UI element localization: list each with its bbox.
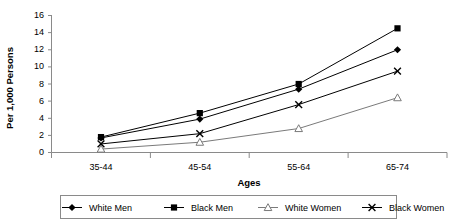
data-point xyxy=(394,46,401,53)
x-category-label: 55-64 xyxy=(287,162,310,172)
x-axis-ticks xyxy=(52,153,448,159)
data-point xyxy=(98,134,104,140)
series-line xyxy=(101,28,398,137)
y-tick-label: 2 xyxy=(39,130,44,140)
line-chart-figure: Per 1,000 Persons 16 14 12 10 8 6 4 2 0 xyxy=(0,0,456,224)
x-category-label: 45-54 xyxy=(188,162,211,172)
series-layer xyxy=(97,25,401,152)
chart-canvas: Per 1,000 Persons 16 14 12 10 8 6 4 2 0 xyxy=(0,0,456,224)
y-tick-label: 16 xyxy=(34,10,44,20)
legend-label: White Men xyxy=(89,203,132,213)
y-axis-title: Per 1,000 Persons xyxy=(4,47,15,129)
data-point xyxy=(394,25,400,31)
data-point xyxy=(394,68,401,75)
data-point xyxy=(296,81,302,87)
series-white-women xyxy=(97,94,401,152)
series-line xyxy=(101,50,398,138)
x-category-label: 35-44 xyxy=(89,162,112,172)
data-point xyxy=(394,94,402,101)
data-point xyxy=(295,101,302,108)
legend-label: White Women xyxy=(285,203,341,213)
series-line xyxy=(101,71,398,144)
y-tick-label: 4 xyxy=(39,113,44,123)
y-tick-label: 10 xyxy=(34,61,44,71)
y-tick-label: 14 xyxy=(34,27,44,37)
y-tick-label: 6 xyxy=(39,96,44,106)
x-axis-category-labels: 35-44 45-54 55-64 65-74 xyxy=(89,162,409,172)
data-point xyxy=(197,110,203,116)
legend-label: Black Men xyxy=(191,203,233,213)
x-category-label: 65-74 xyxy=(386,162,409,172)
legend-label: Black Women xyxy=(389,203,444,213)
filled-square-marker xyxy=(171,204,177,210)
y-axis-tick-labels: 16 14 12 10 8 6 4 2 0 xyxy=(34,10,44,157)
y-axis-ticks xyxy=(48,16,52,153)
y-tick-label: 0 xyxy=(39,147,44,157)
y-tick-label: 12 xyxy=(34,44,44,54)
x-axis-title: Ages xyxy=(237,177,260,188)
series-line xyxy=(101,98,398,149)
series-black-men xyxy=(98,25,401,140)
y-tick-label: 8 xyxy=(39,79,44,89)
data-point xyxy=(196,116,203,123)
